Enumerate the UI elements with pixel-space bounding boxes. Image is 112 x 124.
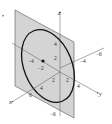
- z-tick-2: 2: [54, 55, 57, 61]
- z-tick-4: 4: [54, 41, 57, 47]
- y-tick-2: 2: [66, 77, 69, 83]
- x-tick-2: 2: [52, 77, 55, 83]
- x-axis-label: x: [8, 99, 12, 105]
- plane: [15, 10, 74, 118]
- bullet-marker: •: [2, 13, 4, 19]
- neg-x-tick-2: −2: [38, 65, 44, 71]
- neg-y-tick-4: −4: [80, 58, 86, 64]
- 3d-ellipse-diagram: • z x y 4 2 −6 2 4 6 2 4 −4 −6 −4 −2: [0, 0, 112, 124]
- z-axis-label: z: [57, 10, 61, 16]
- neg-y-tick-6: −6: [96, 51, 102, 57]
- z-tick-neg6: −6: [50, 111, 56, 117]
- x-tick-6: 6: [29, 92, 32, 98]
- x-tick-4: 4: [40, 85, 43, 91]
- center-point: [41, 59, 44, 62]
- y-axis-label: y: [98, 91, 102, 97]
- neg-x-tick-4: −4: [28, 58, 34, 64]
- y-tick-4: 4: [77, 83, 80, 89]
